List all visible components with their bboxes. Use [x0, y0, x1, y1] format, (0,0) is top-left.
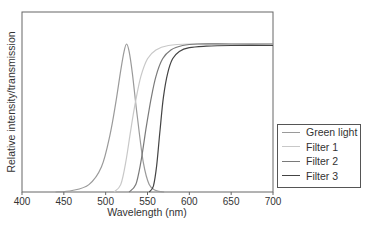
- y-axis-label: Relative intensity/transmission: [5, 31, 17, 172]
- legend-swatch: [282, 146, 300, 147]
- legend-item-filter-3: Filter 3: [278, 169, 360, 184]
- legend-swatch: [282, 161, 300, 162]
- legend-swatch: [282, 132, 300, 133]
- legend-label: Green light: [306, 126, 357, 138]
- x-axis-ticks: 400450500550600650700: [14, 192, 282, 207]
- chart: 400450500550600650700 Wavelength (nm) Re…: [0, 0, 366, 230]
- x-tick-label: 650: [223, 196, 240, 207]
- legend-swatch: [282, 175, 300, 176]
- legend-label: Filter 3: [306, 170, 338, 182]
- series-line-filter-3: [149, 45, 273, 192]
- x-tick-label: 450: [55, 196, 72, 207]
- series-layer: [56, 44, 274, 192]
- x-axis-label: Wavelength (nm): [107, 206, 187, 218]
- legend-label: Filter 1: [306, 141, 338, 153]
- x-tick-label: 400: [14, 196, 31, 207]
- legend-item-green-light: Green light: [278, 125, 360, 140]
- legend-item-filter-2: Filter 2: [278, 154, 360, 169]
- legend-item-filter-1: Filter 1: [278, 140, 360, 155]
- legend-label: Filter 2: [306, 155, 338, 167]
- x-tick-label: 700: [265, 196, 282, 207]
- series-line-filter-2: [129, 44, 273, 192]
- legend: Green light Filter 1 Filter 2 Filter 3: [277, 124, 361, 188]
- plot-frame: [22, 12, 273, 192]
